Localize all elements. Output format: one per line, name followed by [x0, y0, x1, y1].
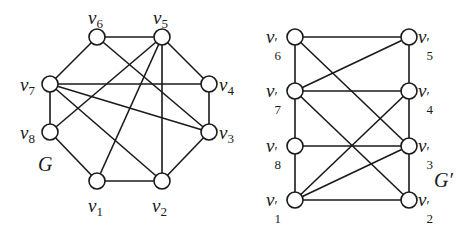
vertex-v2p — [401, 192, 417, 208]
vertex-v7p — [287, 83, 303, 99]
vertex-v8p — [287, 138, 303, 154]
edge-v1p-v3p — [295, 146, 409, 200]
edge-v7p-v5p — [295, 37, 409, 91]
vertex-v7 — [42, 76, 58, 92]
vertex-label-v1p: v′1 — [266, 190, 283, 209]
graph-g — [42, 29, 217, 189]
edge-v7-v2 — [50, 84, 162, 181]
edge-v7-v3 — [50, 84, 209, 132]
vertex-label-v3: v3 — [219, 123, 234, 145]
vertex-v4 — [201, 76, 217, 92]
vertex-label-v7p: v′7 — [266, 81, 283, 100]
graph-drawing — [0, 0, 476, 235]
vertex-label-v5p: v′5 — [418, 27, 435, 46]
vertex-v6p — [287, 29, 303, 45]
vertex-label-v4: v4 — [219, 75, 234, 97]
vertex-label-v4p: v′4 — [418, 81, 435, 100]
vertex-label-v5: v5 — [153, 8, 168, 30]
vertex-label-v2p: v′2 — [418, 190, 435, 209]
vertex-label-v7: v7 — [20, 75, 35, 97]
vertex-label-v8p: v′8 — [266, 136, 283, 155]
edge-v8-v1 — [50, 132, 97, 181]
edge-v6-v7 — [50, 37, 97, 84]
graph-g-prime — [287, 29, 417, 208]
vertex-v1p — [287, 192, 303, 208]
graph-isomorphism-figure: v1v2v3v4v5v6v7v8v′1v′2v′3v′4v′5v′6v′7v′8… — [0, 0, 476, 235]
vertex-label-v1: v1 — [88, 196, 103, 218]
vertex-label-v6p: v′6 — [266, 27, 283, 46]
edge-v5-v4 — [162, 37, 209, 84]
vertex-v5 — [154, 29, 170, 45]
vertex-label-v8: v8 — [20, 123, 35, 145]
vertex-v2 — [154, 173, 170, 189]
vertex-v3p — [401, 138, 417, 154]
graph-name-label: G′ — [434, 170, 453, 190]
edge-v2-v3 — [162, 132, 209, 181]
vertex-label-v3p: v′3 — [418, 136, 435, 155]
vertex-v5p — [401, 29, 417, 45]
vertex-v1 — [89, 173, 105, 189]
vertex-v6 — [89, 29, 105, 45]
graph-name-label: G — [38, 154, 52, 174]
vertex-v3 — [201, 124, 217, 140]
vertex-v8 — [42, 124, 58, 140]
edge-v5-v1 — [97, 37, 162, 181]
vertex-label-v2: v2 — [152, 196, 167, 218]
vertex-label-v6: v6 — [88, 8, 103, 30]
vertex-v4p — [401, 83, 417, 99]
